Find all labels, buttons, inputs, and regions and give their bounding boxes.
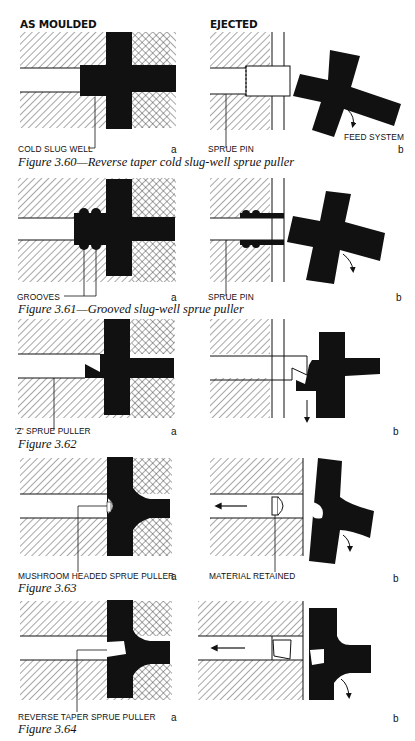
label-feed-system: FEED SYSTEM <box>344 131 404 142</box>
sub-label-b: b <box>393 713 399 724</box>
label-cold-slug-well: COLD SLUG WELL <box>18 143 93 154</box>
figure-caption-3-64: Figure 3.64 <box>18 722 77 737</box>
figure-3-62-b <box>210 319 380 420</box>
label-sprue-pin: SPRUE PIN <box>208 143 254 154</box>
sub-label-b: b <box>398 144 404 155</box>
figure-3-61-b <box>210 178 385 296</box>
figure-3-64-a <box>20 600 172 712</box>
label-material-retained: MATERIAL RETAINED <box>209 570 295 581</box>
sub-label-a: a <box>171 144 177 155</box>
sub-label-b: b <box>393 426 399 437</box>
label-grooves: GROOVES <box>17 291 60 302</box>
figure-3-60-a <box>20 32 176 148</box>
figure-3-63-b <box>210 458 374 572</box>
sub-label-a: a <box>171 426 177 437</box>
sub-label-b: b <box>393 573 399 584</box>
figure-caption-3-61: Figure 3.61—Grooved slug-well sprue pull… <box>18 302 244 317</box>
label-sprue-pin: SPRUE PIN <box>208 291 254 302</box>
figure-3-63-a <box>20 457 172 572</box>
as-moulded-header: AS MOULDED <box>20 18 97 30</box>
sub-label-a: a <box>171 712 177 723</box>
ejected-header: EJECTED <box>210 18 258 30</box>
diagram-canvas <box>0 0 415 741</box>
label-mushroom-headed-sprue-puller: MUSHROOM HEADED SPRUE PULLER <box>18 570 174 581</box>
sub-label-a: a <box>171 571 177 582</box>
sub-label-b: b <box>396 292 402 303</box>
figure-3-62-a <box>18 319 175 430</box>
figure-3-61-a <box>18 178 176 296</box>
figure-caption-3-60: Figure 3.60—Reverse taper cold slug-well… <box>18 155 294 170</box>
label-reverse-taper-sprue-puller: REVERSE TAPER SPRUE PULLER <box>18 711 156 722</box>
label-z-sprue-puller: 'Z' SPRUE PULLER <box>15 425 91 436</box>
figure-3-64-b <box>198 601 371 700</box>
figure-caption-3-62: Figure 3.62 <box>18 437 77 452</box>
figure-caption-3-63: Figure 3.63 <box>18 581 77 596</box>
